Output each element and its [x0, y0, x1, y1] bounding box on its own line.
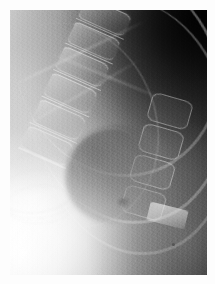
focal-speck [172, 243, 175, 246]
radiograph-viewport [0, 0, 215, 284]
radiograph-image [10, 10, 207, 275]
